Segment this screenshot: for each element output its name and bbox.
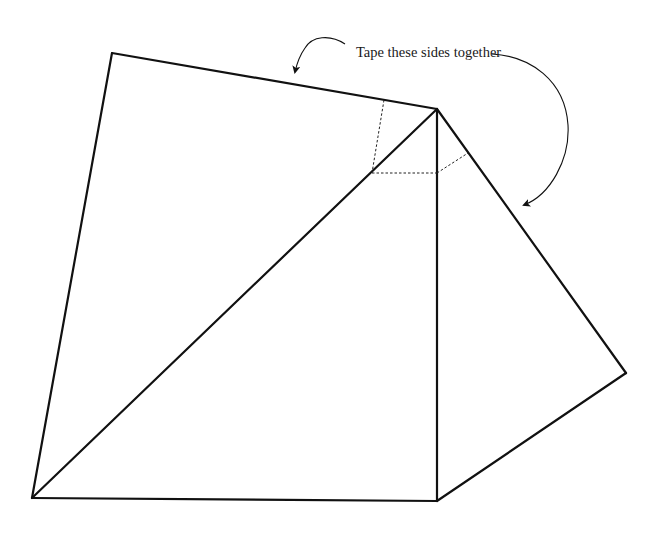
edge-apex-right (437, 109, 626, 373)
solid-edges (32, 53, 626, 501)
left-arrow-icon (295, 38, 345, 72)
right-arrow-icon (492, 54, 568, 205)
pyramid-net-drawing (0, 0, 661, 537)
annotation-arrows (295, 38, 568, 205)
edge-top_left-apex (112, 53, 437, 109)
dashed-fold-lines (372, 100, 468, 173)
fold-line-2 (437, 153, 468, 173)
edge-right-bottom_right (437, 373, 626, 501)
edge-bottom_left-bottom_right (32, 498, 437, 501)
edge-apex-bottom_left (32, 109, 437, 498)
tape-instruction-label: Tape these sides together (356, 44, 501, 61)
diagram-canvas: Tape these sides together (0, 0, 661, 537)
